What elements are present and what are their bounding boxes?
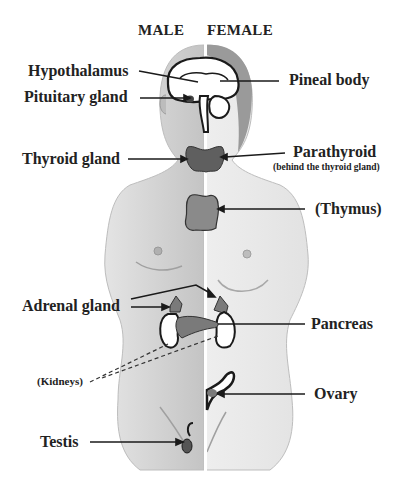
label-parathyroid: Parathyroid [293, 144, 376, 160]
label-parathyroid-note: (behind the thyroid gland) [273, 163, 380, 173]
thymus-shape [185, 195, 218, 231]
header-female: FEMALE [207, 23, 273, 38]
label-adrenal-gland: Adrenal gland [22, 298, 120, 314]
label-pancreas: Pancreas [311, 316, 373, 332]
header-male: MALE [138, 23, 184, 38]
label-kidneys: (Kidneys) [37, 376, 83, 387]
endocrine-diagram: MALE FEMALE Hypothalamus Pituitary gland… [0, 0, 410, 483]
thyroid-gland-shape [186, 147, 224, 172]
label-thyroid-gland: Thyroid gland [22, 151, 120, 167]
kidney-left-shape [160, 314, 179, 348]
label-pituitary-gland: Pituitary gland [24, 89, 128, 105]
label-ovary: Ovary [314, 386, 358, 402]
male-body [105, 45, 204, 470]
kidney-right-shape [216, 312, 235, 348]
label-thymus: (Thymus) [315, 201, 382, 217]
label-hypothalamus: Hypothalamus [28, 63, 128, 79]
label-testis: Testis [40, 434, 79, 450]
label-pineal-body: Pineal body [289, 72, 369, 88]
